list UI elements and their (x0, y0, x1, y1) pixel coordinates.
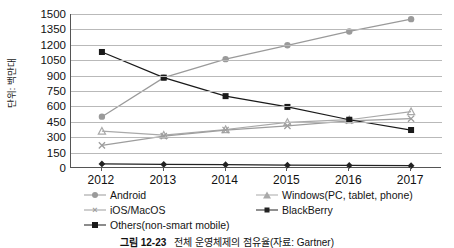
x-axis-tick-label: 2015 (273, 173, 300, 187)
gridline (71, 137, 442, 138)
gridline (71, 106, 442, 107)
figure-caption: 그림 12-23전체 운영체제의 점유율(자료: Gartner) (0, 234, 454, 248)
y-axis-tick-label: 900 (47, 70, 66, 82)
legend-label: BlackBerry (282, 205, 333, 216)
y-axis-tick-label: 1200 (40, 39, 66, 51)
y-axis-tick-label: 600 (47, 100, 66, 112)
y-axis-title: 단위: 백만대 (4, 38, 18, 128)
legend-item-windows-pc-tablet-phone[interactable]: Windows(PC, tablet, phone) (256, 190, 413, 201)
x-axis-tick-label: 2017 (397, 173, 424, 187)
data-point-marker (99, 113, 105, 119)
data-point-marker (408, 16, 414, 22)
legend-circle-icon (84, 190, 106, 200)
gridline (71, 76, 442, 77)
x-axis-tick (348, 167, 349, 171)
x-axis-tick-label: 2013 (149, 173, 176, 187)
gridline (71, 122, 442, 123)
legend-diamond-icon (256, 205, 278, 215)
series-line (102, 112, 411, 136)
legend-square-icon (84, 220, 106, 230)
series-blackberry (99, 160, 415, 169)
legend-label: Windows(PC, tablet, phone) (282, 190, 413, 201)
y-axis-tick-label: 450 (47, 116, 66, 128)
legend-label: iOS/MacOS (110, 205, 165, 216)
data-point-marker (99, 160, 106, 167)
y-axis-tick-label: 1350 (40, 23, 66, 35)
y-axis-tick-label: 150 (47, 147, 66, 159)
x-axis-tick (286, 167, 287, 171)
legend-label: Android (110, 190, 146, 201)
data-point-marker (160, 161, 167, 168)
x-axis-tick (410, 167, 411, 171)
series-line (102, 164, 411, 166)
data-point-marker (223, 93, 229, 99)
x-axis-tick-labels: 201220132014201520162017 (70, 171, 441, 189)
x-axis-tick (101, 167, 102, 171)
chart-legend: AndroidWindows(PC, tablet, phone)×iOS/Ma… (84, 190, 444, 234)
gridline (71, 14, 442, 15)
chart-figure: 단위: 백만대 01503004506007509001050120013501… (0, 0, 454, 248)
data-point-marker (222, 56, 228, 62)
y-axis-tick-label: 300 (47, 131, 66, 143)
data-point-marker (408, 127, 414, 133)
y-axis-tick-label: 1050 (40, 54, 66, 66)
x-axis-tick-label: 2016 (335, 173, 362, 187)
x-axis-tick-label: 2014 (211, 173, 238, 187)
gridline (71, 153, 442, 154)
gridline (71, 60, 442, 61)
data-point-marker (99, 49, 105, 55)
legend-x-icon: × (84, 205, 106, 215)
x-axis-tick (163, 167, 164, 171)
gridline (71, 29, 442, 30)
figure-caption-text: 전체 운영체제의 점유율(자료: Gartner) (174, 237, 334, 248)
series-ios-macos (99, 116, 414, 149)
data-point-marker (408, 162, 415, 169)
legend-item-others-non-smart-mobile[interactable]: Others(non-smart mobile) (84, 220, 230, 231)
series-android (99, 16, 415, 120)
gridline (71, 45, 442, 46)
plot-area (70, 14, 441, 168)
legend-item-android[interactable]: Android (84, 190, 146, 201)
legend-label: Others(non-smart mobile) (110, 220, 230, 231)
gridline (71, 91, 442, 92)
figure-number: 그림 12-23 (120, 237, 166, 248)
legend-triangle-icon (256, 190, 278, 200)
y-axis-tick-label: 0 (60, 162, 66, 174)
y-axis-tick-label: 1500 (40, 8, 66, 20)
x-axis-tick-label: 2012 (88, 173, 115, 187)
data-point-marker (284, 162, 291, 169)
legend-item-blackberry[interactable]: BlackBerry (256, 205, 333, 216)
legend-item-ios-macos[interactable]: ×iOS/MacOS (84, 205, 165, 216)
x-axis-tick (225, 167, 226, 171)
y-axis-tick-label: 750 (47, 85, 66, 97)
y-axis-tick-labels: 01503004506007509001050120013501500 (22, 14, 66, 168)
data-point-marker (346, 162, 353, 169)
data-point-marker (222, 161, 229, 168)
